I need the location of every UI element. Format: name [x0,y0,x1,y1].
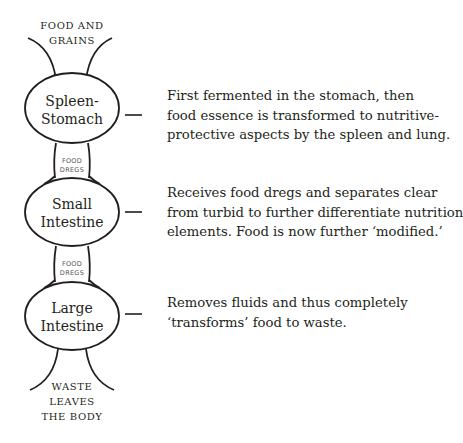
organ-2-label-line-2: Intestine [40,214,103,230]
top-label-line-2: GRAINS [49,35,95,46]
organ-2-description-line: Receives food dregs and separates clear [167,183,463,203]
connector-1-label-line-2: DREGS [60,166,84,174]
organ-large-intestine-shape [25,282,119,350]
connector-1-right-wall [88,143,90,178]
organ-3-description-line: Removes fluids and thus completely [167,293,408,313]
organ-2-description-line: from turbid to further differentiate nut… [167,203,463,223]
connector-1-left-wall [54,143,56,178]
connector-2-left-wall [54,246,56,282]
organ-1-label-line-2: Stomach [41,111,103,127]
organ-3-description-line: ‘transforms’ food to waste. [167,313,408,333]
bottom-label-line-1: WASTE [52,381,93,392]
bottom-label-line-3: THE BODY [41,411,102,422]
organ-2-label-line-1: Small [52,196,93,212]
organ-3-description: Removes fluids and thus completely ‘tran… [167,293,408,332]
organ-1-description-line: First fermented in the stomach, then [167,86,450,106]
top-label-line-1: FOOD AND [40,20,103,31]
organ-1-label-line-1: Spleen- [45,93,99,109]
organ-1-description-line: food essence is transformed to nutritive… [167,106,450,126]
bottom-label-line-2: LEAVES [49,396,95,407]
organ-3-label-line-2: Intestine [40,318,103,334]
organ-2-description: Receives food dregs and separates clear … [167,183,463,242]
connector-2-right-wall [88,246,90,282]
connector-2-label-line-2: DREGS [60,269,84,277]
organ-1-description-line: protective aspects by the spleen and lun… [167,125,450,145]
organ-small-intestine-shape [25,178,119,246]
connector-2-label-line-1: FOOD [62,260,82,268]
organ-3-label-line-1: Large [51,300,93,316]
organ-2-description-line: elements. Food is now further ‘modified.… [167,222,463,242]
organ-1-description: First fermented in the stomach, then foo… [167,86,450,145]
connector-1-label-line-1: FOOD [62,157,82,165]
